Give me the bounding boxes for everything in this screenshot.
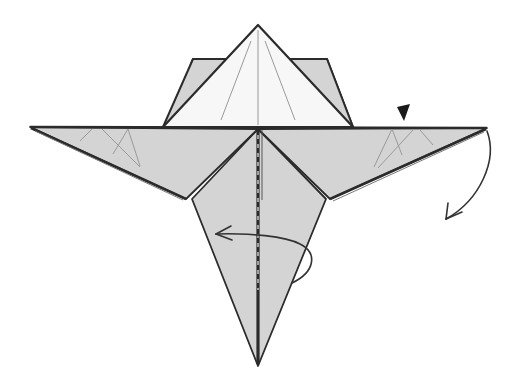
push-arrow-icon <box>397 104 410 121</box>
origami-diagram <box>0 0 510 389</box>
wing-top-edge <box>30 127 487 128</box>
